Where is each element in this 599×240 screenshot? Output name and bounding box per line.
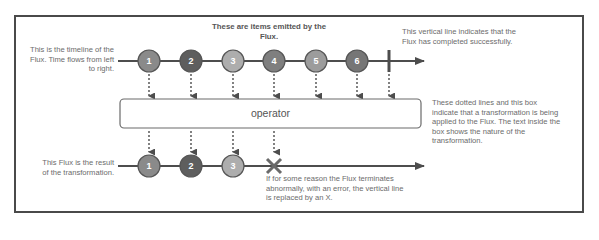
result-marbles: 123 (138, 155, 244, 177)
marble-item: 5 (305, 50, 327, 72)
marble-label: 3 (230, 161, 235, 171)
marble-label: 6 (354, 56, 359, 66)
marble-label: 1 (146, 56, 151, 66)
marble-item: 3 (222, 155, 244, 177)
marble-label: 5 (313, 56, 318, 66)
note-result-timeline: This Flux is the result of the transform… (34, 158, 114, 177)
note-operator-explanation: These dotted lines and this box indicate… (432, 98, 562, 146)
marble-label: 2 (188, 161, 193, 171)
marble-label: 3 (230, 56, 235, 66)
note-emitted-items: These are items emitted by the Flux. (212, 22, 326, 42)
marble-item: 4 (263, 50, 285, 72)
note-error: If for some reason the Flux terminates a… (266, 174, 406, 203)
marble-item: 2 (180, 50, 202, 72)
marble-item: 3 (222, 50, 244, 72)
marble-item: 1 (138, 50, 160, 72)
marble-label: 4 (271, 56, 276, 66)
note-source-timeline: This is the timeline of the Flux. Time f… (24, 45, 114, 74)
operator-label: operator (120, 107, 421, 119)
transform-arrows-in (149, 74, 389, 96)
note-completion: This vertical line indicates that the Fl… (402, 27, 522, 46)
marble-label: 1 (146, 161, 151, 171)
marble-item: 1 (138, 155, 160, 177)
transform-arrows-out (149, 131, 274, 152)
marble-label: 2 (188, 56, 193, 66)
marble-item: 6 (346, 50, 368, 72)
marble-item: 2 (180, 155, 202, 177)
